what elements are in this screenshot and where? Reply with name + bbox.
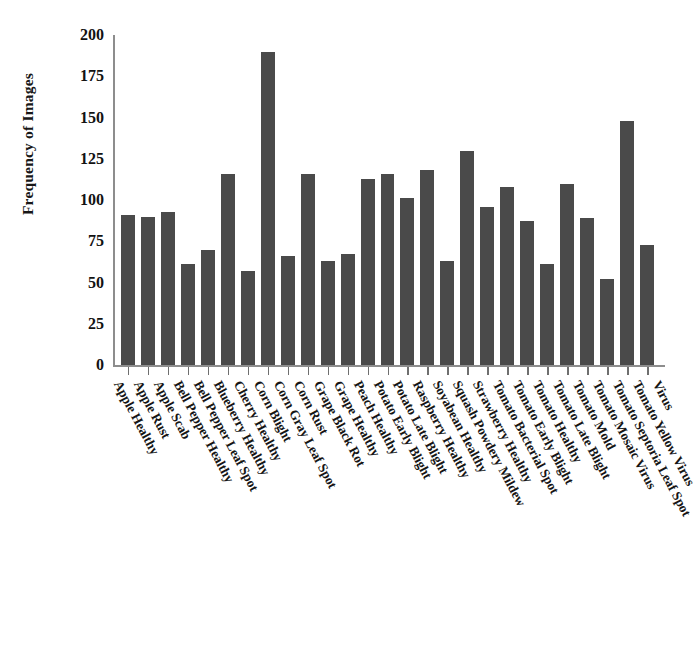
bar [460, 151, 474, 366]
x-tick-mark [647, 367, 649, 375]
x-axis-ticks [115, 367, 665, 377]
bar-series [115, 35, 665, 365]
bar [281, 256, 295, 365]
y-tick-label: 50 [34, 274, 104, 292]
bar [201, 250, 215, 366]
y-tick-label: 150 [34, 109, 104, 127]
x-tick-mark [567, 367, 569, 375]
bar [600, 279, 614, 365]
x-tick-mark [308, 367, 310, 375]
bar [580, 218, 594, 365]
y-tick-label: 200 [34, 26, 104, 44]
x-tick-mark [407, 367, 409, 375]
x-tick-mark [447, 367, 449, 375]
x-tick-mark [427, 367, 429, 375]
x-tick-mark [148, 367, 150, 375]
x-tick-mark [587, 367, 589, 375]
bar [341, 254, 355, 365]
bar [500, 187, 514, 365]
x-tick-mark [527, 367, 529, 375]
bar [381, 174, 395, 365]
x-tick-mark [507, 367, 509, 375]
plot-area [113, 35, 665, 365]
bar [321, 261, 335, 365]
bar [520, 221, 534, 365]
bar [440, 261, 454, 365]
bar [161, 212, 175, 365]
y-tick-label: 100 [34, 191, 104, 209]
x-tick-mark [627, 367, 629, 375]
x-tick-mark [248, 367, 250, 375]
bar [420, 170, 434, 365]
x-tick-mark [368, 367, 370, 375]
x-tick-mark [288, 367, 290, 375]
bar [560, 184, 574, 366]
bar [301, 174, 315, 365]
bar [141, 217, 155, 366]
x-tick-mark [607, 367, 609, 375]
bar [640, 245, 654, 365]
y-tick-label: 75 [34, 232, 104, 250]
bar [261, 52, 275, 366]
x-tick-mark [388, 367, 390, 375]
x-tick-mark [188, 367, 190, 375]
y-tick-label: 0 [34, 356, 104, 374]
bar [540, 264, 554, 365]
y-axis-tick-labels: 0255075100125150175200 [0, 0, 112, 400]
x-tick-mark [348, 367, 350, 375]
x-tick-mark [228, 367, 230, 375]
x-tick-mark [328, 367, 330, 375]
bar [400, 198, 414, 365]
y-tick-label: 25 [34, 315, 104, 333]
bar [221, 174, 235, 365]
x-tick-mark [547, 367, 549, 375]
y-tick-label: 125 [34, 150, 104, 168]
x-tick-mark [487, 367, 489, 375]
x-tick-mark [268, 367, 270, 375]
bar [480, 207, 494, 365]
y-tick-label: 175 [34, 67, 104, 85]
bar [241, 271, 255, 365]
x-tick-mark [467, 367, 469, 375]
x-tick-mark [128, 367, 130, 375]
bar [361, 179, 375, 365]
bar [181, 264, 195, 365]
bar [121, 215, 135, 365]
x-tick-mark [208, 367, 210, 375]
bar [620, 121, 634, 365]
x-tick-mark [168, 367, 170, 375]
